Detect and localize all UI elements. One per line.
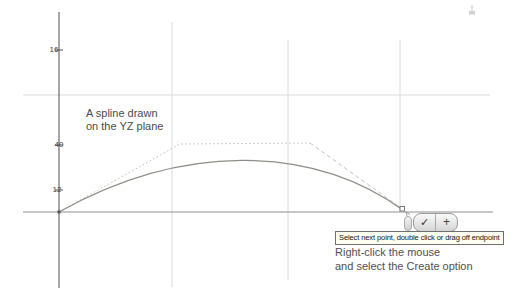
spline-endpoint-marker[interactable] [400,207,405,212]
instruction-line-1: Right-click the mouse [335,246,473,260]
status-tooltip: Select next point, double click or drag … [335,231,504,245]
annotation-line-2: on the YZ plane [86,120,163,133]
add-point-button[interactable]: + [436,214,457,231]
toolbar-button-group: ✓ + [413,213,458,232]
dimension-label-40: 40 [50,140,68,149]
spline-control-polygon-end-segment [310,143,401,208]
toolbar-grip-handle[interactable] [404,216,412,231]
annotation-text: A spline drawn on the YZ plane [86,107,163,133]
corner-icon [469,5,475,15]
annotation-line-1: A spline drawn [86,107,163,120]
spline-start-point[interactable] [58,211,61,214]
sketch-canvas[interactable]: 16 40 12 A spline drawn on the YZ plane … [0,0,515,303]
instruction-line-2: and select the Create option [335,260,473,274]
dimension-label-16: 16 [45,45,63,54]
mini-toolbar: ✓ + [404,213,458,231]
instruction-text: Right-click the mouse and select the Cre… [335,246,473,273]
dimension-label-12: 12 [48,185,66,194]
confirm-button[interactable]: ✓ [414,214,436,231]
spline-control-polygon [59,143,310,212]
spline-curve[interactable] [59,160,403,212]
